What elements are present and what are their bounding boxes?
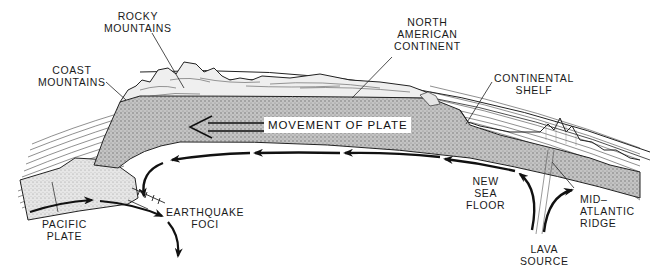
label-line: CONTINENT bbox=[394, 40, 461, 52]
label-line: MOUNTAINS bbox=[38, 76, 106, 88]
label-line: CONTINENTAL bbox=[494, 72, 574, 84]
label-lava-source: LAVA SOURCE bbox=[520, 243, 569, 267]
label-movement-of-plate: MOVEMENT OF PLATE bbox=[264, 117, 411, 133]
label-pacific-plate: PACIFIC PLATE bbox=[42, 218, 87, 242]
label-line: MID– bbox=[580, 193, 635, 205]
label-line: ROCKY bbox=[104, 10, 172, 22]
rocky-mountains-relief bbox=[120, 62, 430, 102]
plate-tectonics-diagram: ROCKY MOUNTAINS COAST MOUNTAINS NORTH AM… bbox=[0, 0, 651, 277]
north-american-plate bbox=[94, 92, 640, 198]
label-line: MOUNTAINS bbox=[104, 22, 172, 34]
label-line: NORTH bbox=[394, 16, 461, 28]
label-line: RIDGE bbox=[580, 217, 635, 229]
label-line: PLATE bbox=[42, 230, 87, 242]
label-line: COAST bbox=[38, 64, 106, 76]
label-line: NEW bbox=[466, 175, 505, 187]
label-mid-atlantic-ridge: MID– ATLANTIC RIDGE bbox=[580, 193, 635, 229]
lava-upwelling-arrows bbox=[520, 174, 572, 232]
label-line: FOCI bbox=[166, 218, 244, 230]
mantle-flow-arrows bbox=[143, 153, 515, 197]
label-earthquake-foci: EARTHQUAKE FOCI bbox=[166, 206, 244, 230]
label-line: AMERICAN bbox=[394, 28, 461, 40]
label-line: SEA bbox=[466, 187, 505, 199]
label-rocky-mountains: ROCKY MOUNTAINS bbox=[104, 10, 172, 34]
cross-section-illustration bbox=[0, 0, 651, 277]
label-line: PACIFIC bbox=[42, 218, 87, 230]
label-coast-mountains: COAST MOUNTAINS bbox=[38, 64, 106, 88]
label-north-american-continent: NORTH AMERICAN CONTINENT bbox=[394, 16, 461, 52]
label-line: EARTHQUAKE bbox=[166, 206, 244, 218]
label-line: SHELF bbox=[494, 84, 574, 96]
label-line: FLOOR bbox=[466, 199, 505, 211]
label-line: SOURCE bbox=[520, 255, 569, 267]
label-continental-shelf: CONTINENTAL SHELF bbox=[494, 72, 574, 96]
label-new-sea-floor: NEW SEA FLOOR bbox=[466, 175, 505, 211]
label-line: LAVA bbox=[520, 243, 569, 255]
label-line: ATLANTIC bbox=[580, 205, 635, 217]
